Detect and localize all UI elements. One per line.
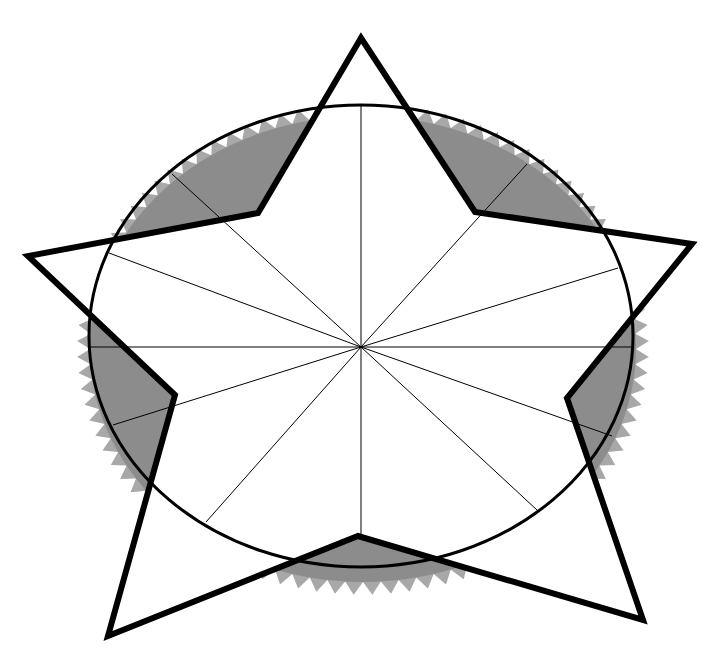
star-circle-diagram bbox=[0, 0, 721, 653]
diagram-svg bbox=[0, 0, 721, 653]
